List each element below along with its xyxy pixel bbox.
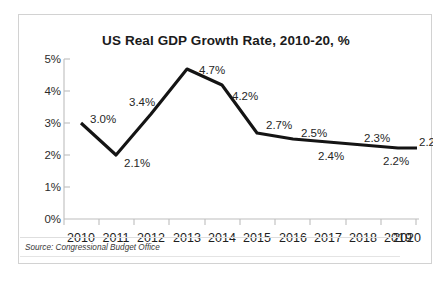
y-tick-label-2: 2%	[44, 149, 61, 161]
x-tick-label-2018: 2018	[349, 231, 377, 245]
data-label-2020: 2.2%	[419, 136, 433, 148]
data-label-2015: 2.7%	[266, 119, 292, 131]
y-tick-label-1: 1%	[44, 181, 61, 193]
y-axis-tick-labels: 5% 4% 3% 2% 1% 0%	[44, 53, 61, 225]
y-axis-tick-marks	[64, 59, 70, 187]
data-label-2016: 2.5%	[301, 127, 327, 139]
y-tick-label-0: 0%	[44, 213, 61, 225]
x-tick-label-2014: 2014	[208, 231, 236, 245]
data-label-2011: 2.1%	[124, 157, 150, 169]
chart-card: US Real GDP Growth Rate, 2010-20, % 5% 4…	[18, 14, 432, 264]
x-tick-label-2016: 2016	[279, 231, 307, 245]
y-tick-label-5: 5%	[44, 53, 61, 65]
x-tick-label-2020: 2020	[393, 231, 421, 245]
x-tick-label-2013: 2013	[173, 231, 201, 245]
x-tick-label-2017: 2017	[314, 231, 342, 245]
data-label-2013: 4.7%	[199, 64, 225, 76]
data-label-2014: 4.2%	[232, 90, 258, 102]
data-point-labels: 3.0% 2.1% 3.4% 4.7% 4.2% 2.7% 2.5% 2.4% …	[90, 64, 433, 169]
data-label-2017: 2.4%	[318, 150, 344, 162]
source-underline	[20, 256, 400, 257]
data-label-2018: 2.3%	[364, 132, 390, 144]
data-label-2012: 3.4%	[129, 96, 155, 108]
line-chart-plot: 5% 4% 3% 2% 1% 0%	[19, 15, 433, 265]
source-note: Source: Congressional Budget Office	[25, 243, 160, 252]
y-tick-label-3: 3%	[44, 117, 61, 129]
x-tick-label-2015: 2015	[243, 231, 271, 245]
x-axis-tick-marks	[64, 219, 416, 225]
y-tick-label-4: 4%	[44, 85, 61, 97]
data-label-2010: 3.0%	[90, 113, 116, 125]
source-divider	[20, 237, 400, 238]
data-label-2019: 2.2%	[383, 155, 409, 167]
